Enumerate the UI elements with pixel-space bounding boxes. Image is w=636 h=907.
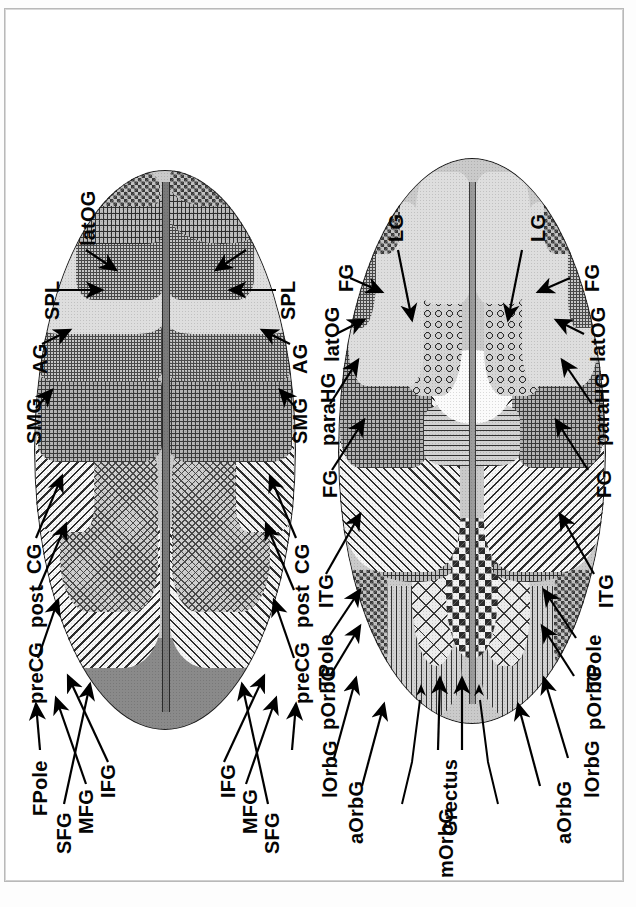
rotated-figure-stage: IFG MFG SFG FPole SFG MFG IFG preCG post… <box>16 18 620 890</box>
label-tpole-lower: TPole <box>584 634 604 689</box>
label-parahg-lower: paraHG <box>592 372 612 445</box>
label-precg-right: preCG <box>292 641 312 703</box>
label-smg-left: SMG <box>24 397 44 443</box>
leader-lines-panel-2 <box>316 18 620 890</box>
label-sfg-right: SFG <box>262 812 282 854</box>
label-aorbg-upper: aOrbG <box>346 780 366 843</box>
label-lg-lower: LG <box>528 213 548 241</box>
label-cg-right: CG <box>292 543 312 573</box>
label-lorbg-lower: lOrbG <box>582 740 602 798</box>
label-post-right: post <box>292 584 312 627</box>
label-itg-lower: ITG <box>596 574 616 608</box>
leader-lines-panel-1 <box>16 18 316 890</box>
label-ag-right: AG <box>290 343 310 373</box>
label-fg-lower2: FG <box>582 263 602 291</box>
label-parahg-upper: paraHG <box>318 372 338 445</box>
label-mfg-right: MFG <box>240 788 260 833</box>
figure-page: IFG MFG SFG FPole SFG MFG IFG preCG post… <box>0 0 636 907</box>
label-latog-upper: latOG <box>322 306 342 361</box>
panel-inferior-view: lOrbG aOrbG mOrbG Grectus aOrbG lOrbG pO… <box>316 18 620 890</box>
label-ifg-left: IFG <box>98 764 118 798</box>
label-grectus: Grectus <box>440 759 460 836</box>
label-cg-left: CG <box>24 543 44 573</box>
label-ifg-right: IFG <box>218 764 238 798</box>
label-fg-lower: FG <box>594 469 614 497</box>
label-smg-right: SMG <box>290 397 310 443</box>
label-lorbg-upper: lOrbG <box>320 740 340 798</box>
label-precg-left: preCG <box>26 641 46 703</box>
label-fpole-left: FPole <box>30 760 50 815</box>
label-sfg-left: SFG <box>54 812 74 854</box>
figure-canvas: IFG MFG SFG FPole SFG MFG IFG preCG post… <box>0 0 636 907</box>
label-itg-upper: ITG <box>316 574 336 608</box>
label-fg-upper2: FG <box>336 263 356 291</box>
label-ag-left: AG <box>30 343 50 373</box>
label-latog: latOG <box>78 190 98 245</box>
label-tpole-upper: TPole <box>316 634 336 689</box>
label-lg-upper: LG <box>386 213 406 241</box>
label-fg-upper: FG <box>320 469 340 497</box>
label-aorbg-lower: aOrbG <box>554 780 574 843</box>
label-latog-lower: latOG <box>588 306 608 361</box>
label-mfg-left: MFG <box>76 788 96 833</box>
panel-superior-view: IFG MFG SFG FPole SFG MFG IFG preCG post… <box>16 18 316 890</box>
label-spl-left: SPL <box>42 280 62 320</box>
label-spl-right: SPL <box>278 280 298 320</box>
label-post-left: post <box>26 584 46 627</box>
